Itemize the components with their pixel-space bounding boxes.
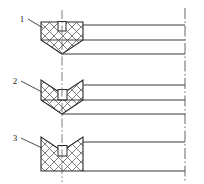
callout-label-2: 2	[13, 76, 18, 86]
callout-2-leader	[21, 81, 42, 92]
cross-section-drawing: 1 2 3	[0, 0, 204, 184]
profile-3-group[interactable]	[38, 134, 185, 176]
technical-drawing-canvas: 1 2 3	[0, 0, 204, 184]
profile-2-slot	[58, 90, 67, 101]
callout-label-1: 1	[20, 14, 25, 24]
profile-3-slot	[58, 146, 67, 157]
callout-label-3: 3	[13, 133, 18, 143]
profile-1-group[interactable]	[38, 19, 185, 59]
profile-2-group[interactable]	[38, 77, 185, 119]
callout-3-leader	[21, 138, 42, 148]
